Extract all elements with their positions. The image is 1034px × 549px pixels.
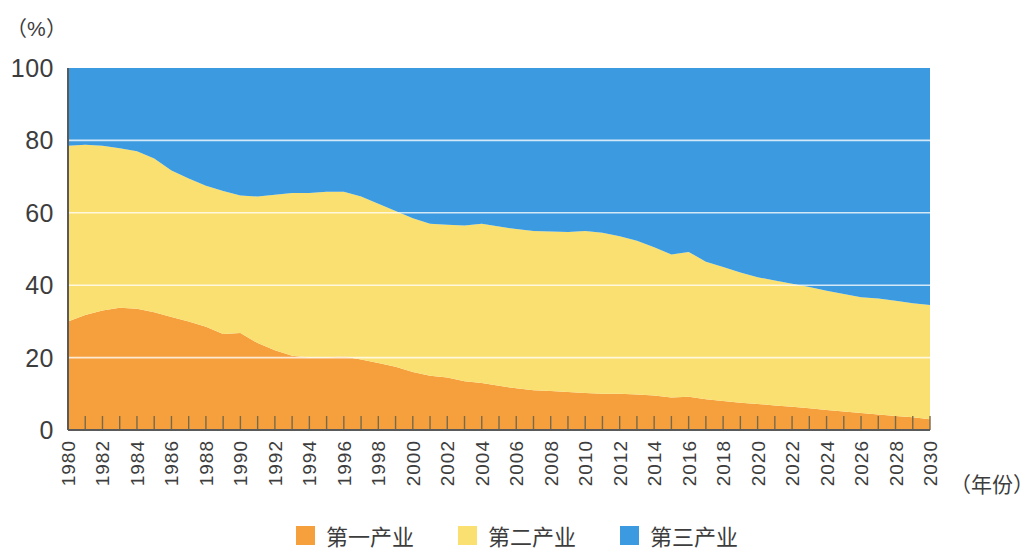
x-tick-label-2002: 2002 bbox=[437, 440, 459, 486]
x-tick-label-1988: 1988 bbox=[196, 440, 218, 486]
legend-item-2[interactable]: 第二产业 bbox=[458, 519, 576, 549]
legend-label: 第三产业 bbox=[650, 519, 738, 549]
x-tick-label-2000: 2000 bbox=[403, 440, 425, 486]
y-tick-label-100: 100 bbox=[2, 54, 54, 83]
x-tick-label-2004: 2004 bbox=[472, 440, 494, 486]
legend-item-3[interactable]: 第三产业 bbox=[620, 519, 738, 549]
x-tick-label-2016: 2016 bbox=[679, 440, 701, 486]
x-tick-label-2024: 2024 bbox=[817, 440, 839, 486]
legend-swatch-icon bbox=[458, 526, 477, 545]
x-tick-label-1980: 1980 bbox=[58, 440, 80, 486]
legend-item-1[interactable]: 第一产业 bbox=[296, 519, 414, 549]
x-tick-label-2006: 2006 bbox=[506, 440, 528, 486]
x-axis-title: （年份） bbox=[950, 468, 1034, 498]
x-tick-label-1982: 1982 bbox=[92, 440, 114, 486]
y-tick-label-20: 20 bbox=[2, 343, 54, 372]
x-tick-label-1994: 1994 bbox=[299, 440, 321, 486]
y-tick-label-40: 40 bbox=[2, 271, 54, 300]
x-tick-label-1998: 1998 bbox=[368, 440, 390, 486]
y-tick-label-60: 60 bbox=[2, 198, 54, 227]
x-tick-label-1984: 1984 bbox=[127, 440, 149, 486]
x-tick-label-1990: 1990 bbox=[230, 440, 252, 486]
x-tick-label-2008: 2008 bbox=[541, 440, 563, 486]
x-tick-label-2010: 2010 bbox=[575, 440, 597, 486]
y-tick-label-80: 80 bbox=[2, 126, 54, 155]
y-tick-label-0: 0 bbox=[2, 416, 54, 445]
stacked-area-chart: （%） 020406080100 19801982198419861988199… bbox=[0, 0, 1034, 549]
x-tick-label-2014: 2014 bbox=[644, 440, 666, 486]
chart-legend: 第一产业第二产业第三产业 bbox=[0, 519, 1034, 549]
x-tick-label-1996: 1996 bbox=[334, 440, 356, 486]
legend-swatch-icon bbox=[296, 526, 315, 545]
x-tick-label-2030: 2030 bbox=[920, 440, 942, 486]
x-tick-label-2022: 2022 bbox=[782, 440, 804, 486]
x-tick-label-2018: 2018 bbox=[713, 440, 735, 486]
legend-swatch-icon bbox=[620, 526, 639, 545]
x-tick-label-2028: 2028 bbox=[886, 440, 908, 486]
x-tick-label-1992: 1992 bbox=[265, 440, 287, 486]
legend-label: 第二产业 bbox=[488, 519, 576, 549]
x-tick-label-1986: 1986 bbox=[161, 440, 183, 486]
x-tick-label-2012: 2012 bbox=[610, 440, 632, 486]
legend-label: 第一产业 bbox=[326, 519, 414, 549]
x-tick-label-2020: 2020 bbox=[748, 440, 770, 486]
x-tick-label-2026: 2026 bbox=[851, 440, 873, 486]
